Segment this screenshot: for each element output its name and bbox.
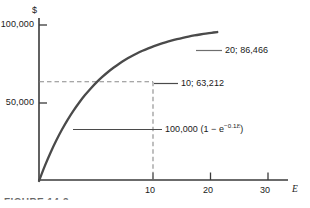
y-tick-label-100000: 100,000 bbox=[0, 20, 34, 29]
x-tick-label-20: 20 bbox=[203, 186, 213, 195]
x-tick-label-30: 30 bbox=[260, 186, 270, 195]
formula-exponent: −0.1E bbox=[224, 122, 240, 129]
annotation-formula: 100,000 (1 − e−0.1E) bbox=[165, 125, 243, 134]
x-tick-label-10: 10 bbox=[145, 186, 155, 195]
formula-base: 100,000 (1 − e bbox=[165, 124, 224, 134]
y-tick-label-50000: 50,000 bbox=[0, 98, 34, 107]
annotation-point-10: 10; 63,212 bbox=[181, 79, 224, 88]
annotation-point-20: 20; 86,466 bbox=[225, 46, 268, 55]
exponential-curve bbox=[39, 32, 217, 181]
x-axis-title: E bbox=[292, 185, 298, 195]
formula-tail: ) bbox=[240, 124, 243, 134]
formula-exponent-sign: −0.1 bbox=[224, 122, 236, 129]
figure-container: $ 100,000 50,000 10 20 30 E 20; 86,466 1… bbox=[0, 0, 310, 208]
chart-canvas bbox=[0, 0, 310, 208]
y-axis-title: $ bbox=[32, 6, 37, 15]
